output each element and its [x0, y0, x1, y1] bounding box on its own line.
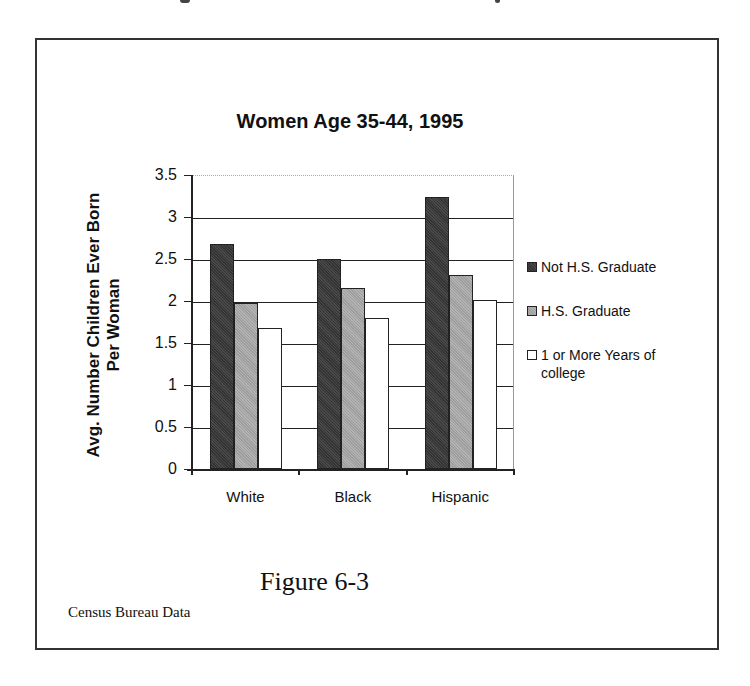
- y-axis-label-line-2: Per Woman: [104, 193, 124, 458]
- legend-label: college: [541, 364, 656, 382]
- x-axis: [187, 469, 515, 471]
- legend-swatch-gray: [527, 306, 537, 316]
- gridline: [192, 218, 513, 219]
- chart-title: Women Age 35-44, 1995: [180, 110, 520, 133]
- legend-item-not-hs-graduate: Not H.S. Graduate: [525, 258, 656, 276]
- bar-white-series-0: [210, 244, 234, 469]
- x-tick-label: Hispanic: [407, 488, 514, 505]
- y-tick: [184, 427, 192, 428]
- legend-label: H.S. Graduate: [541, 303, 631, 319]
- bar-hispanic-series-0: [425, 197, 449, 469]
- x-tick: [406, 469, 408, 475]
- plot-area: [192, 175, 514, 469]
- source-note: Census Bureau Data: [68, 604, 190, 621]
- y-tick-label: 3: [168, 208, 177, 226]
- legend-item-hs-graduate: H.S. Graduate: [525, 302, 656, 320]
- y-tick: [184, 259, 192, 260]
- y-tick: [184, 385, 192, 386]
- y-tick-label: 1.5: [155, 334, 177, 352]
- legend-swatch-dark: [527, 262, 537, 272]
- legend-item-college: 1 or More Years of college: [525, 346, 656, 382]
- x-tick: [298, 469, 300, 475]
- figure-caption: Figure 6-3: [260, 567, 369, 597]
- x-tick-label: Black: [299, 488, 406, 505]
- y-tick-label: 1: [168, 376, 177, 394]
- bar-white-series-2: [258, 328, 282, 469]
- bar-black-series-2: [365, 318, 389, 469]
- legend-label: 1 or More Years of: [541, 346, 656, 364]
- y-tick-label: 2.5: [155, 250, 177, 268]
- y-tick: [184, 343, 192, 344]
- y-axis-label: Avg. Number Children Ever Born Per Woman: [84, 193, 124, 458]
- x-tick: [513, 469, 515, 475]
- legend: Not H.S. Graduate H.S. Graduate 1 or Mor…: [525, 258, 656, 408]
- y-tick: [184, 175, 192, 176]
- gridline: [192, 260, 513, 261]
- y-tick-label: 0.5: [155, 418, 177, 436]
- legend-label: Not H.S. Graduate: [541, 259, 656, 275]
- bar-black-series-0: [317, 259, 341, 469]
- y-tick: [184, 301, 192, 302]
- clipped-text-fragment: [180, 0, 190, 3]
- y-tick-label: 0: [168, 460, 177, 478]
- y-axis-label-line-1: Avg. Number Children Ever Born: [84, 193, 104, 458]
- bar-hispanic-series-2: [473, 300, 497, 469]
- y-tick: [184, 217, 192, 218]
- bar-black-series-1: [341, 288, 365, 469]
- clipped-text-fragment: [495, 0, 500, 3]
- bar-white-series-1: [234, 303, 258, 469]
- x-tick-label: White: [192, 488, 299, 505]
- x-tick: [191, 469, 193, 475]
- legend-swatch-white: [527, 350, 537, 360]
- bar-hispanic-series-1: [449, 275, 473, 469]
- y-tick-label: 2: [168, 292, 177, 310]
- y-tick-label: 3.5: [155, 166, 177, 184]
